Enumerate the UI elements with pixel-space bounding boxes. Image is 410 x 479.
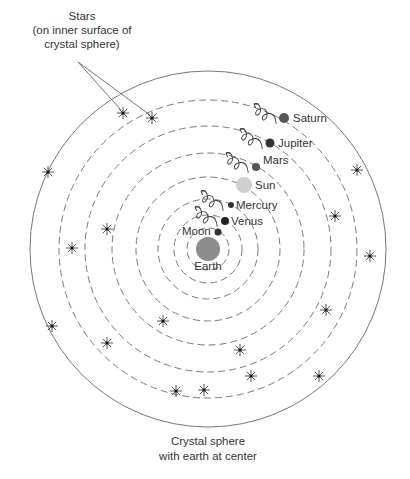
venus-body (221, 217, 229, 225)
mars-epicycle-icon (222, 151, 253, 174)
mars-body (252, 163, 260, 171)
stars-pointer-lines (78, 62, 150, 115)
star-icon (157, 315, 169, 327)
moon-label: Moon (182, 225, 211, 237)
star-icon (46, 320, 58, 332)
star-icon (364, 250, 376, 262)
venus-label: Venus (231, 215, 263, 227)
mercury-body (228, 202, 234, 208)
star-icon (117, 107, 129, 119)
caption: Crystal sphere with earth at center (158, 435, 257, 462)
mars-label: Mars (263, 154, 289, 166)
stars-label-line2: (on inner surface of (32, 24, 132, 36)
sun-label: Sun (255, 179, 275, 191)
stars-label-line1: Stars (69, 10, 96, 22)
star-icon (101, 223, 113, 235)
star-icon (313, 370, 325, 382)
star-icon (66, 242, 78, 254)
star-icon (245, 370, 257, 382)
star-icon (329, 210, 341, 222)
caption-line1: Crystal sphere (171, 435, 245, 447)
moon-body (215, 229, 222, 236)
caption-line2: with earth at center (158, 450, 257, 462)
earth-body (196, 237, 220, 261)
jupiter-epicycle-icon (236, 127, 267, 150)
star-icon (42, 166, 54, 178)
star-icon (234, 344, 246, 356)
jupiter-label: Jupiter (278, 137, 313, 149)
star-icon (351, 164, 363, 176)
stars-label-line3: crystal sphere) (44, 38, 120, 50)
mercury-label: Mercury (236, 199, 278, 211)
star-icon (320, 304, 332, 316)
saturn-label: Saturn (293, 112, 327, 124)
stars-annotation: Stars (on inner surface of crystal spher… (32, 10, 132, 50)
star-icon (101, 337, 113, 349)
saturn-epicycle-icon (250, 102, 281, 125)
star-icon (198, 384, 210, 396)
star-icon (170, 385, 182, 397)
earth-label: Earth (194, 260, 222, 272)
saturn-body (279, 113, 289, 123)
geocentric-diagram: MoonVenusMercurySunMarsJupiterSaturnEart… (0, 0, 410, 479)
mercury-epicycle-icon (197, 189, 228, 212)
star-icon (146, 112, 158, 124)
jupiter-body (266, 139, 275, 148)
sun-body (236, 177, 252, 193)
